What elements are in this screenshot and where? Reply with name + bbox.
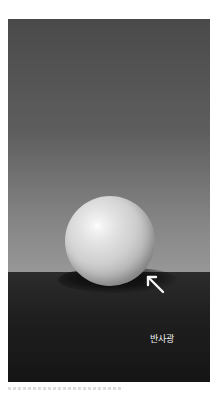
photo-frame: 반사광 [8, 19, 210, 382]
reflected-light-label: 반사광 [150, 332, 175, 345]
caption-text-faint [8, 387, 123, 390]
white-sphere [65, 196, 155, 286]
arrow-up-left-icon [144, 273, 166, 295]
